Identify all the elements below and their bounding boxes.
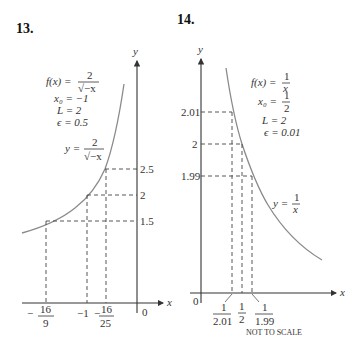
x-axis-label: x [339, 286, 345, 298]
x-tick-neg-16-9: − 16 9 [27, 303, 54, 329]
x-axis-label: x [166, 296, 172, 308]
origin-label: 0 [193, 295, 199, 307]
svg-text:25: 25 [100, 317, 112, 329]
x-tick-neg-1: −1 [77, 307, 89, 319]
figure-number: 14. [177, 12, 195, 27]
parameter-block: f(x) = 2 √−x x₀ = −1 L = 2 ϵ = 0.5 [46, 69, 99, 128]
svg-text:1: 1 [284, 70, 290, 82]
svg-text:9: 9 [43, 317, 49, 329]
y-tick-2: 2 [140, 189, 146, 201]
svg-text:2: 2 [239, 313, 245, 325]
svg-text:2.01: 2.01 [213, 315, 232, 327]
svg-text:√−x: √−x [84, 150, 102, 162]
L-value: L = 2 [261, 114, 287, 126]
y-tick-2: 2 [192, 138, 198, 150]
svg-text:2: 2 [87, 69, 93, 81]
epsilon-value: ϵ = 0.5 [57, 116, 89, 128]
not-to-scale-note: NOT TO SCALE [246, 328, 302, 337]
svg-text:y =: y = [272, 197, 288, 209]
y-tick-1.99: 1.99 [181, 170, 201, 182]
svg-text:2: 2 [284, 102, 290, 114]
epsilon-value: ϵ = 0.01 [264, 126, 301, 138]
y-tick-2.5: 2.5 [140, 163, 154, 175]
y-tick-2.01: 2.01 [181, 106, 200, 118]
y-tick-1.5: 1.5 [140, 215, 154, 227]
svg-text:1: 1 [262, 301, 268, 313]
parameter-block: f(x) = 1 x x₀ = 1 2 L = 2 ϵ = 0.01 [251, 70, 301, 138]
curve-label: y = 2 √−x [64, 136, 104, 162]
x0-value: x₀ = −1 [53, 92, 89, 104]
svg-text:x: x [292, 203, 298, 215]
svg-text:16: 16 [101, 303, 113, 315]
f-def: f(x) = [46, 75, 71, 88]
f-def: f(x) = [251, 76, 276, 89]
svg-text:1: 1 [284, 89, 290, 101]
svg-text:16: 16 [40, 303, 52, 315]
figure-number: 13. [16, 21, 34, 36]
curve-label: y = 1 x [272, 191, 300, 215]
svg-text:1: 1 [221, 301, 227, 313]
x0-value: x₀ = [257, 95, 277, 107]
figure-13: 13. x y 2.5 2 1.5 − 16 9 −1 − 16 25 [16, 21, 172, 329]
x-tick-neg-16-25: − 16 25 [94, 303, 114, 329]
svg-text:1: 1 [239, 300, 245, 312]
svg-text:1: 1 [294, 191, 300, 203]
x-tick-1-over-2.01: 1 2.01 [213, 301, 232, 327]
L-value: L = 2 [56, 104, 82, 116]
figure-14: 14. x y 2.01 2 1.99 1 2.01 1 2 [177, 12, 345, 337]
x-tick-1-over-1.99: 1 1.99 [255, 301, 275, 327]
origin-label: 0 [142, 306, 148, 318]
svg-text:1.99: 1.99 [255, 315, 275, 327]
y-axis-label: y [132, 45, 138, 57]
svg-text:y =: y = [64, 142, 80, 154]
svg-text:2: 2 [92, 136, 98, 148]
y-axis-label: y [197, 43, 203, 55]
figure-canvas: 13. x y 2.5 2 1.5 − 16 9 −1 − 16 25 [0, 0, 364, 357]
svg-text:−: − [27, 307, 33, 319]
x-tick-1-over-2: 1 2 [238, 300, 246, 325]
